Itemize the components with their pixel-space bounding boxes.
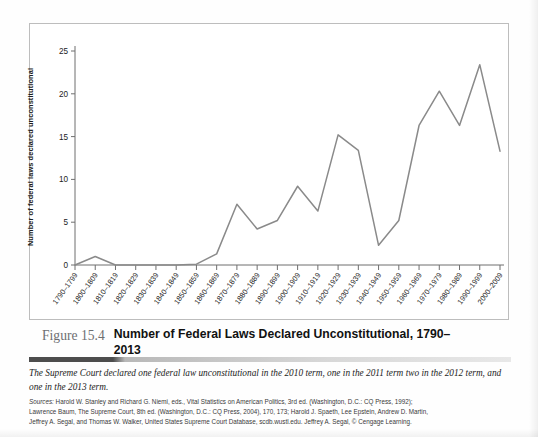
page-edge-shadow-right	[529, 0, 538, 437]
svg-text:25: 25	[59, 47, 69, 56]
figure-page: Number of federal laws declared unconsti…	[0, 0, 538, 437]
figure-title: Number of Federal Laws Declared Unconsti…	[114, 327, 476, 358]
svg-text:20: 20	[59, 90, 69, 99]
sources-text-1: Harold W. Stanley and Richard G. Niemi, …	[54, 398, 413, 405]
caption-divider-rule	[29, 357, 511, 362]
chart-frame: Number of federal laws declared unconsti…	[29, 23, 509, 320]
sources-label: Sources:	[29, 398, 54, 405]
svg-text:0: 0	[63, 261, 68, 270]
page-edge-shadow-bottom	[0, 429, 538, 437]
svg-text:15: 15	[59, 133, 69, 142]
line-chart: 05101520251790–17991800–18091810–1819182…	[30, 24, 510, 321]
sources-line-3: Jeffrey A. Segal, and Thomas W. Walker, …	[29, 417, 513, 427]
figure-number: Figure 15.4	[42, 327, 114, 344]
figure-caption: Figure 15.4 Number of Federal Laws Decla…	[42, 327, 512, 358]
sources-line-1: Sources: Harold W. Stanley and Richard G…	[29, 397, 513, 407]
sources-line-2: Lawrence Baum, The Supreme Court, 8th ed…	[29, 407, 513, 417]
figure-sources: Sources: Harold W. Stanley and Richard G…	[29, 397, 513, 427]
figure-note: The Supreme Court declared one federal l…	[29, 366, 507, 394]
svg-text:10: 10	[59, 175, 69, 184]
plot-area: Number of federal laws declared unconsti…	[30, 24, 510, 321]
svg-text:5: 5	[63, 218, 68, 227]
